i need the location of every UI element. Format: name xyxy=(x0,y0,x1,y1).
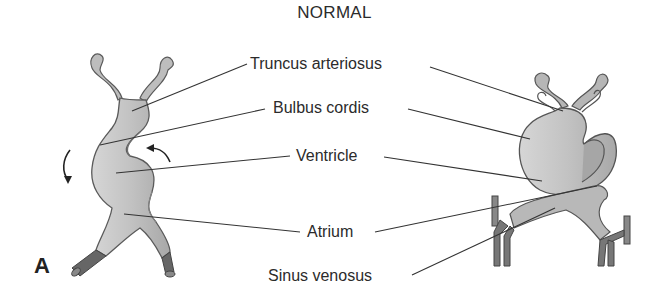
label-truncus-arteriosus: Truncus arteriosus xyxy=(250,55,382,73)
right-looped-heart xyxy=(492,73,630,266)
label-atrium: Atrium xyxy=(307,223,353,241)
panel-letter: A xyxy=(34,253,50,279)
label-bulbus-cordis: Bulbus cordis xyxy=(273,99,369,117)
label-sinus-venosus: Sinus venosus xyxy=(268,267,372,285)
embryonic-heart-diagram: NORMAL xyxy=(0,0,669,306)
left-heart-tube xyxy=(64,54,175,278)
label-ventricle: Ventricle xyxy=(296,147,357,165)
